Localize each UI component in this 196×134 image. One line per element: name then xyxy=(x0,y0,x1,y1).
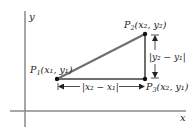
horizontal-distance-label: |x₂ − x₁| xyxy=(82,82,119,93)
point-p1 xyxy=(55,77,59,81)
point-p3-label: P3(x₂, y₁) xyxy=(145,81,189,94)
point-p2-label: P2(x₂, y₂) xyxy=(123,19,167,32)
point-p2 xyxy=(143,32,147,36)
diagram-canvas: y x P1(x₁, y₁) P2(x₂, y₂) P3(x₂, y₁) |x₂… xyxy=(0,0,196,134)
x-axis-label: x xyxy=(180,112,186,123)
vertical-distance-label: |y₂ − y₁| xyxy=(149,52,186,63)
y-axis-label: y xyxy=(28,11,35,22)
